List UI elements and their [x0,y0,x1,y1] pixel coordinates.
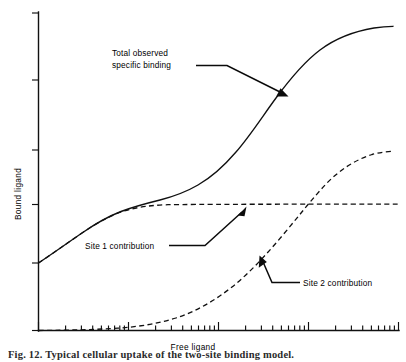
annotation-total-observed: Total observed specific binding [112,48,289,97]
figure-container: Total observed specific binding Site 1 c… [0,0,406,362]
y-axis-ticks [32,13,39,331]
annotation-site-2: Site 2 contribution [259,256,373,289]
annotation-total-label-line2: specific binding [112,60,171,70]
annotation-site-1-arrowhead [238,207,247,217]
curve-total-observed-binding [39,26,394,263]
annotation-site-1: Site 1 contribution [85,207,247,252]
annotation-site-2-label: Site 2 contribution [303,278,373,288]
binding-curve-chart: Total observed specific binding Site 1 c… [0,0,406,362]
annotation-site-1-label: Site 1 contribution [85,241,155,251]
annotation-site-1-leader-line [169,212,242,246]
annotation-site-2-leader-line [264,263,301,283]
figure-caption: Fig. 12. Typical cellular uptake of the … [8,349,404,360]
y-axis-label: Bound ligand [13,168,23,220]
annotation-total-label-line1: Total observed [112,48,168,58]
annotation-total-leader-line [196,66,281,93]
